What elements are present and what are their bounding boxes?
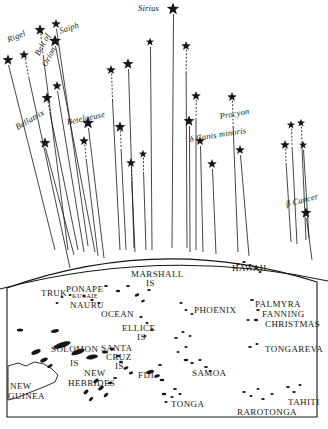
island-mark [257,388,260,390]
island-label: MARSHALL [131,270,184,279]
island-label: PHOENIX [194,306,236,315]
island-mark [250,299,254,301]
island-mark [147,289,151,291]
island-mark [198,359,202,361]
island-mark [83,389,90,396]
island-label: FANNING [262,310,305,319]
island-mark [189,335,192,337]
island-label: IS [146,279,155,288]
star-glyph [52,81,62,90]
star-glyph [126,158,136,167]
star-glyph [167,3,179,15]
star-glyph [139,150,147,158]
star-path-solid [57,29,89,246]
island-mark [116,290,120,292]
star-path-solid [151,47,153,250]
island-mark [184,359,189,361]
island-mark [154,374,161,378]
island-mark [86,354,99,360]
island-mark [185,309,188,311]
island-mark [56,302,59,304]
island-mark [249,395,252,397]
island-mark [123,366,129,370]
star-glyph [42,92,53,102]
star-glyph [297,119,305,127]
island-label: TONGAREVA [265,345,323,354]
island-mark [178,393,182,395]
star-glyph [19,50,29,59]
star-glyph [301,207,312,217]
star-path-dotted [292,126,293,147]
island-label: FIJI [138,371,154,380]
star-path-solid [307,218,313,260]
island-mark [103,392,109,398]
star-glyph [181,41,191,50]
island-label: IS [115,362,124,371]
island-mark [104,285,108,287]
star-glyph [280,140,290,149]
island-label: NEW [10,382,32,391]
island-label: HAWAII [232,264,267,273]
star-glyph [235,145,245,154]
island-mark [242,391,246,393]
star-path-solid [201,146,204,252]
island-mark [181,331,184,333]
island-label: SOLOMON [51,345,98,354]
island-mark [248,346,252,348]
island-mark [184,346,187,348]
star-glyph [40,137,51,147]
island-mark [298,384,301,386]
island-label: IS [70,359,79,368]
star-label: Sirius [138,4,159,13]
star-path-solid [86,161,98,256]
island-label: CHRISTMAS [265,320,320,329]
island-label: TRUK [41,289,67,298]
island-mark [255,343,258,345]
island-label: TAHITI [288,398,320,407]
island-label: GUINEA [8,392,45,401]
island-mark [40,357,49,364]
star-path-solid [112,100,120,250]
island-mark [139,316,143,318]
island-mark [51,329,60,334]
island-label: SAMOA [192,369,227,378]
star-path-dotted [112,71,113,100]
star-glyph [227,92,237,101]
island-mark [256,309,260,311]
island-mark [261,398,265,400]
island-mark [170,396,173,398]
island-label: KUSAIE [72,293,98,300]
island-mark [31,348,42,356]
island-mark [88,396,94,402]
island-label: RAROTONGA [237,408,297,417]
star-glyph [146,38,154,46]
star-path-dotted [196,97,197,119]
island-mark [160,379,165,382]
star-path-dotted [121,128,122,149]
star-glyph [287,121,295,129]
star-path-solid [186,72,187,248]
star-glyph [191,91,201,100]
island-mark [158,364,162,366]
map-frame-and-islands [0,259,328,417]
island-label: NEW [84,369,106,378]
star-glyph [123,58,134,68]
island-mark [17,328,23,331]
star-path-solid [241,155,250,256]
star-path-dotted [286,146,287,163]
island-mark [286,386,290,388]
island-mark [162,393,167,396]
star-path-solid [213,169,217,254]
island-label: PALMYRA [255,300,301,309]
star-path-solid [121,149,126,250]
island-mark [177,351,180,353]
star-path-solid [190,126,191,252]
island-label: TONGA [171,400,204,409]
island-mark [292,391,296,393]
island-mark [254,319,258,321]
star-glyph [115,121,126,131]
island-mark [190,362,194,364]
star-glyph [184,115,195,125]
island-label: IS [137,333,146,342]
star-glyph [299,141,307,149]
